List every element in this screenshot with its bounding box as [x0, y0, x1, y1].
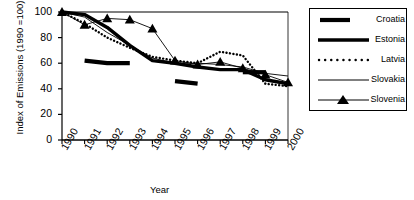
legend-label: Slovakia: [371, 74, 405, 84]
legend-label: Croatia: [376, 14, 405, 24]
y-tick-100: 100: [26, 5, 52, 17]
y-tick-80: 80: [26, 31, 52, 43]
legend-item-slovakia[interactable]: Slovakia: [310, 70, 408, 90]
legend-item-croatia[interactable]: Croatia: [310, 10, 408, 30]
legend-item-slovenia[interactable]: Slovenia: [310, 90, 408, 110]
y-tick-60: 60: [26, 56, 52, 68]
legend-marker-dotted-line: [316, 50, 374, 70]
x-axis-label: Year: [150, 184, 169, 195]
y-tick-40: 40: [26, 82, 52, 94]
y-tick-0: 0: [26, 133, 52, 145]
legend-label: Latvia: [381, 54, 405, 64]
legend-marker-thick-line: [316, 10, 374, 30]
legend-item-estonia[interactable]: Estonia: [310, 30, 408, 50]
legend-label: Estonia: [375, 34, 405, 44]
legend-item-latvia[interactable]: Latvia: [310, 50, 408, 70]
legend-marker-thin-line: [316, 70, 374, 90]
legend-marker-thick-line-long: [316, 30, 374, 50]
chart-figure: Index of Emissions (1990 =100) 020406080…: [0, 0, 414, 200]
legend-label: Slovenia: [370, 94, 405, 104]
y-axis-label: Index of Emissions (1990 =100): [14, 0, 25, 143]
axes-frame: [58, 12, 288, 144]
legend-marker-thin-line-triangle: [316, 90, 374, 110]
legend-box: CroatiaEstoniaLatviaSlovakiaSlovenia: [309, 8, 407, 111]
series-group: [57, 7, 293, 86]
series-estonia: [62, 12, 288, 84]
y-tick-20: 20: [26, 107, 52, 119]
